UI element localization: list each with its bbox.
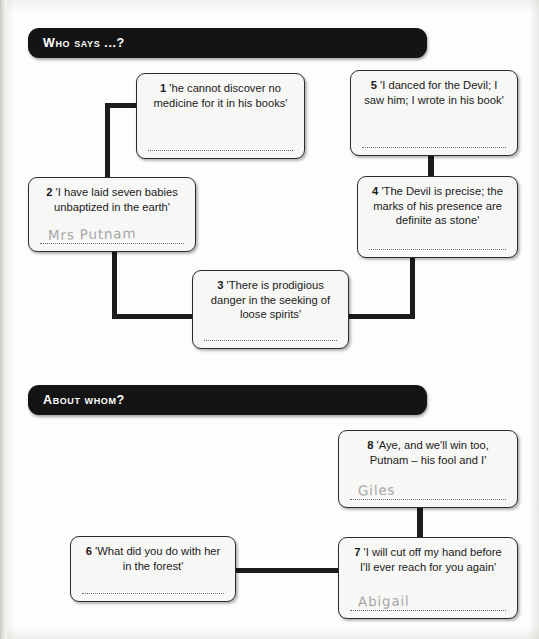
quote-box-2-text: 2 'I have laid seven babies unbaptized i… [38,185,186,214]
quote-box-6-number: 6 [86,545,92,557]
quote-box-8[interactable]: 8 'Aye, and we'll win too, Putnam – his … [338,430,518,508]
quote-box-8-quote: 'Aye, and we'll win too, Putnam – his fo… [370,439,489,466]
quote-box-1-text: 1 'he cannot discover no medicine for it… [146,81,295,110]
quote-box-5-answer-area[interactable] [360,129,508,151]
quote-box-2-answer-line [40,243,184,244]
quote-box-4-answer-area[interactable] [367,231,508,253]
connector-3-to-4-vertical [410,256,415,319]
quote-box-3[interactable]: 3 'There is prodigious danger in the see… [192,270,349,349]
quote-box-3-text: 3 'There is prodigious danger in the see… [202,278,339,322]
quote-box-7-number: 7 [354,546,360,558]
quote-box-3-quote: 'There is prodigious danger in the seeki… [211,279,330,320]
connector-2-to-3-horizontal [112,314,194,319]
quote-box-6-text: 6 'What did you do with her in the fores… [80,544,226,573]
quote-box-2-answer-area[interactable]: Mrs Putnam [38,225,186,247]
quote-box-5-text: 5 'I danced for the Devil; I saw him; I … [360,78,508,107]
quote-box-1-answer-line [148,150,293,151]
quote-box-1[interactable]: 1 'he cannot discover no medicine for it… [136,73,305,159]
quote-box-1-number: 1 [160,82,166,94]
quote-box-3-number: 3 [217,279,223,291]
section-banner-who-says: Who says ...? [28,28,427,58]
worksheet-page: Who says ...? 1 'he cannot discover no m… [0,0,539,639]
section-banner-label-who-says: Who says ...? [28,36,125,50]
quote-box-4-text: 4 'The Devil is precise; the marks of hi… [367,184,508,228]
quote-box-5-quote: 'I danced for the Devil; I saw him; I wr… [364,79,504,106]
quote-box-8-number: 8 [367,439,373,451]
section-banner-label-about-whom: About whom? [28,393,125,407]
quote-box-1-answer-area[interactable] [146,132,295,154]
quote-box-7[interactable]: 7 'I will cut off my hand before I'll ev… [338,537,518,619]
quote-box-8-answer-area[interactable]: Giles [348,481,508,503]
quote-box-6-quote: 'What did you do with her in the forest' [95,545,220,572]
quote-box-2-number: 2 [46,186,52,198]
quote-box-5-answer-line [362,147,506,148]
section-banner-about-whom: About whom? [28,385,427,415]
quote-box-2-answer: Mrs Putnam [48,225,137,243]
quote-box-7-quote: 'I will cut off my hand before I'll ever… [360,546,502,573]
quote-box-6[interactable]: 6 'What did you do with her in the fores… [70,536,236,602]
quote-box-4-number: 4 [372,185,378,197]
quote-box-5[interactable]: 5 'I danced for the Devil; I saw him; I … [350,70,518,156]
quote-box-5-number: 5 [371,79,377,91]
quote-box-6-answer-area[interactable] [80,575,226,597]
quote-box-7-answer: Abigail [358,592,410,609]
connector-6-to-7-horizontal [236,568,340,573]
connector-1-to-2-vertical [105,103,110,179]
connector-3-to-4-horizontal [346,314,415,319]
quote-box-3-answer-line [204,340,337,341]
quote-box-4-answer-line [369,249,506,250]
connector-2-to-3-vertical [112,250,117,319]
quote-box-7-answer-line [350,610,506,611]
quote-box-4[interactable]: 4 'The Devil is precise; the marks of hi… [357,176,518,258]
quote-box-4-quote: 'The Devil is precise; the marks of his … [373,185,503,226]
quote-box-8-answer: Giles [358,482,396,499]
quote-box-1-quote: 'he cannot discover no medicine for it i… [154,82,288,109]
quote-box-6-answer-line [82,593,224,594]
quote-box-8-text: 8 'Aye, and we'll win too, Putnam – his … [348,438,508,467]
scan-edge-shadow [0,0,7,639]
quote-box-7-text: 7 'I will cut off my hand before I'll ev… [348,545,508,574]
quote-box-7-answer-area[interactable]: Abigail [348,592,508,614]
quote-box-8-answer-line [350,499,506,500]
quote-box-3-answer-area[interactable] [202,322,339,344]
quote-box-2-quote: 'I have laid seven babies unbaptized in … [54,186,178,213]
quote-box-2[interactable]: 2 'I have laid seven babies unbaptized i… [28,177,196,252]
